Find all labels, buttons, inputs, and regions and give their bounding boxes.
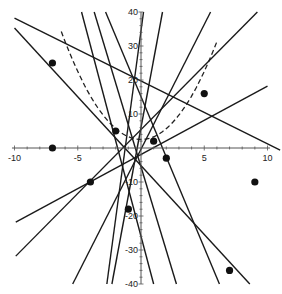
- y-tick-label: 20: [128, 75, 138, 85]
- data-point: [87, 178, 94, 185]
- x-tick-label: -10: [8, 153, 21, 163]
- y-tick-label: -20: [125, 211, 138, 221]
- data-points: [49, 59, 259, 274]
- data-point: [201, 90, 208, 97]
- x-tick-label: 5: [202, 153, 207, 163]
- y-tick-label: -10: [125, 177, 138, 187]
- y-tick-label: 40: [128, 7, 138, 17]
- data-point: [49, 144, 56, 151]
- chart-plot-area: -10-551040302010-10-20-30-40: [0, 0, 282, 294]
- data-point: [226, 267, 233, 274]
- data-point: [150, 138, 157, 145]
- line: [16, 86, 268, 222]
- x-tick-label: -5: [74, 153, 82, 163]
- data-point: [163, 155, 170, 162]
- data-point: [112, 127, 119, 134]
- line: [15, 18, 281, 150]
- x-tick-label: 10: [262, 153, 272, 163]
- data-point: [49, 59, 56, 66]
- y-tick-label: -30: [125, 245, 138, 255]
- data-point: [251, 178, 258, 185]
- y-tick-label: 30: [128, 41, 138, 51]
- y-tick-label: 10: [128, 109, 138, 119]
- y-tick-label: -40: [125, 279, 138, 289]
